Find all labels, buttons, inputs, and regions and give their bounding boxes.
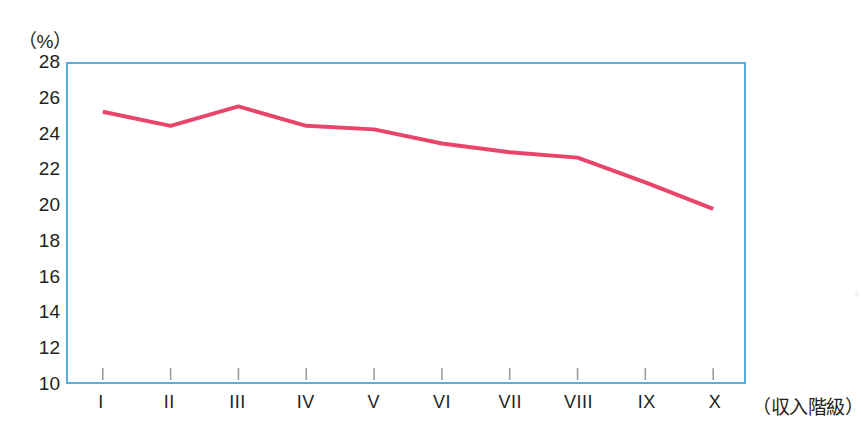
y-axis-tick-label: 24 (16, 123, 60, 145)
y-axis-tick-label: 22 (16, 158, 60, 180)
line-chart-figure: （%） 28262422201816141210 IIIIIIIVVVIVIIV… (0, 0, 861, 442)
plot-area (66, 62, 746, 384)
y-axis-tick-label: 28 (16, 51, 60, 73)
x-axis-tick-marks (103, 368, 713, 380)
y-axis-tick-label: 26 (16, 87, 60, 109)
x-axis-tick-label: I (98, 392, 104, 413)
y-axis-tick-label: 20 (16, 194, 60, 216)
x-axis-tick-label: VII (499, 392, 523, 413)
y-axis-tick-label: 12 (16, 337, 60, 359)
x-axis-tick-label: III (229, 392, 246, 413)
y-axis-tick-label: 10 (16, 373, 60, 395)
x-axis-tick-label: IV (297, 392, 315, 413)
x-axis-tick-label: X (709, 392, 722, 413)
scan-artifact-speck (855, 292, 859, 297)
y-axis-tick-labels: 28262422201816141210 (8, 0, 60, 442)
x-axis-tick-label: IX (638, 392, 656, 413)
y-axis-tick-label: 14 (16, 301, 60, 323)
data-series-svg (68, 64, 744, 382)
y-axis-tick-label: 16 (16, 266, 60, 288)
x-axis-tick-label: VIII (564, 392, 593, 413)
data-series-line (103, 106, 713, 208)
x-axis-tick-label: V (368, 392, 381, 413)
x-axis-title: （収入階級） (752, 392, 861, 419)
y-axis-tick-label: 18 (16, 230, 60, 252)
x-axis-tick-label: II (164, 392, 175, 413)
x-axis-tick-label: VI (433, 392, 451, 413)
